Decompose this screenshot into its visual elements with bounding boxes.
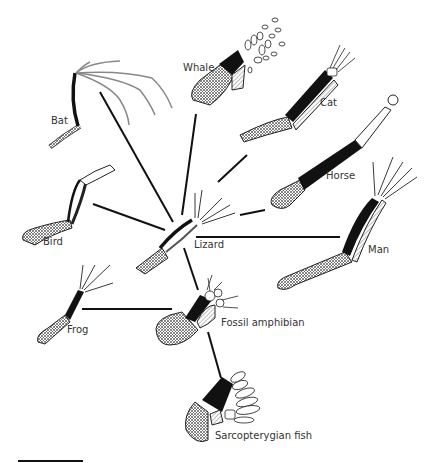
diagram-canvas xyxy=(0,0,435,463)
lizard-limb xyxy=(136,190,235,274)
bird-limb xyxy=(23,165,116,245)
label-whale: Whale xyxy=(183,62,214,73)
label-sarcopterygian-fish: Sarcopterygian fish xyxy=(215,430,312,441)
label-bird: Bird xyxy=(43,236,63,247)
label-bat: Bat xyxy=(51,115,68,126)
label-frog: Frog xyxy=(67,324,88,335)
bat-limb xyxy=(50,61,172,147)
label-horse: Horse xyxy=(326,170,355,181)
label-fossil-amphibian: Fossil amphibian xyxy=(221,317,305,328)
label-lizard: Lizard xyxy=(194,239,224,250)
label-cat: Cat xyxy=(320,97,337,108)
homology-diagram: Bat Whale Cat Horse Bird Lizard Man Frog… xyxy=(0,0,435,463)
label-man: Man xyxy=(368,244,389,255)
connector-lines xyxy=(82,92,340,378)
